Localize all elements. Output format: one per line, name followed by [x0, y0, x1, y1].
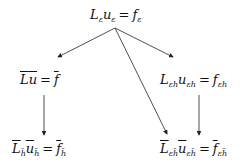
operator: L [20, 72, 29, 87]
subscript: εh̄ [218, 149, 227, 158]
equals: = [116, 7, 133, 22]
edge-top-to-mid-right [115, 28, 173, 57]
subscript: εh̄ [169, 149, 178, 158]
equation-top: Lεuε=fε [90, 8, 142, 24]
subscript: ε [111, 15, 115, 24]
subscript: εh [218, 80, 227, 89]
equals: = [37, 72, 54, 87]
operator: L [160, 141, 169, 156]
operator: L [12, 141, 21, 156]
subscript: εh̄ [186, 149, 195, 158]
equation-bot-right: Lεh̄uεh̄=fεh̄ [160, 142, 227, 158]
operator: L [160, 72, 169, 87]
rhs: f [54, 72, 59, 87]
equation-mid-right: Lεhuεh=fεh [160, 73, 227, 89]
equation-mid-left: Lu=f [20, 73, 59, 86]
variable: u [26, 141, 34, 156]
edge-top-to-mid-left [58, 28, 115, 57]
equals: = [196, 72, 213, 87]
subscript: εh [186, 80, 195, 89]
equals: = [196, 141, 213, 156]
equals: = [39, 141, 56, 156]
subscript: εh [169, 80, 178, 89]
equation-bot-left: Lh̄uh̄=fh̄ [12, 142, 66, 158]
subscript: h̄ [61, 149, 66, 158]
variable: u [29, 72, 37, 87]
operator: L [90, 7, 99, 22]
subscript: ε [137, 15, 141, 24]
